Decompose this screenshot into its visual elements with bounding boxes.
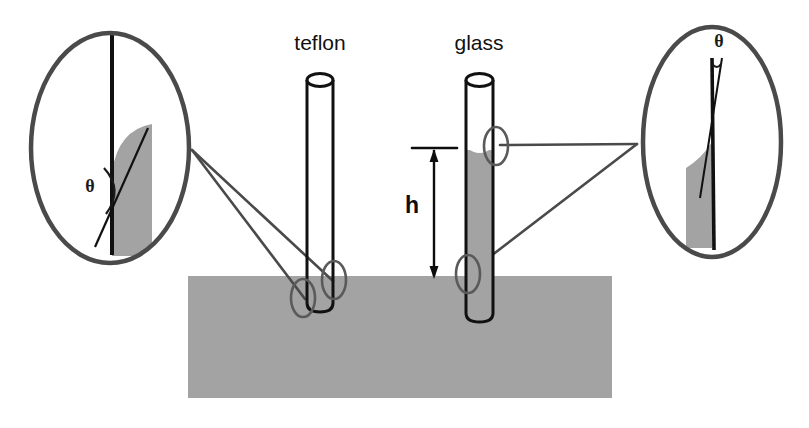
glass-tube-opening (466, 74, 493, 87)
teflon-callout: θ (31, 32, 189, 263)
glass-callout: θ (643, 27, 781, 257)
glass-callout-angle-arc (712, 64, 721, 67)
teflon-tube-label: teflon (294, 31, 345, 54)
capillary-action-figure: teflon glass h (0, 0, 809, 428)
teflon-tube-opening (307, 74, 333, 87)
glass-tube-liquid (467, 150, 492, 325)
figure-canvas: teflon glass h (0, 0, 809, 428)
glass-leader-lines (470, 144, 637, 272)
teflon-contact-angle-label: θ (85, 176, 94, 196)
height-marker-h: h (405, 148, 457, 279)
glass-callout-liquid (686, 142, 712, 248)
glass-tube-label: glass (454, 31, 503, 54)
liquid-reservoir (188, 276, 612, 398)
teflon-tube: teflon (294, 31, 345, 316)
height-label-h: h (405, 192, 419, 218)
glass-contact-angle-label: θ (714, 31, 723, 51)
teflon-callout-liquid (112, 124, 152, 256)
height-arrow-head-up (430, 149, 439, 162)
glass-callout-wall (712, 58, 714, 250)
